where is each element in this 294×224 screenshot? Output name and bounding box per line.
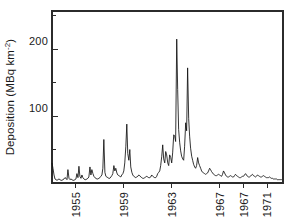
- data-line-deposition: [52, 39, 282, 180]
- y-axis-title: Deposition (MBq km-2): [3, 39, 16, 156]
- x-tick-label-0: 1955: [70, 192, 82, 217]
- x-tick-label-5: 1971: [261, 192, 273, 217]
- x-axis-ticks-group: [76, 183, 268, 188]
- y-tick-labels-group: 200 100: [29, 35, 48, 114]
- x-tick-label-1: 1959: [118, 192, 130, 217]
- data-series-group: [52, 39, 282, 180]
- x-tick-labels-group: 195519591963196719671971: [70, 192, 274, 217]
- deposition-chart-figure: Deposition (MBq km-2) 200 100 1955195919…: [0, 0, 294, 224]
- x-tick-label-2: 1963: [166, 192, 178, 217]
- y-axis-title-paren: ): [4, 39, 16, 43]
- y-tick-label-100: 100: [29, 102, 48, 114]
- y-axis-title-group: Deposition (MBq km-2): [3, 39, 16, 156]
- chart-canvas: Deposition (MBq km-2) 200 100 1955195919…: [0, 0, 294, 224]
- x-tick-label-3: 1967: [214, 192, 226, 217]
- y-tick-label-200: 200: [29, 35, 48, 47]
- x-tick-label-4: 1967: [238, 192, 250, 217]
- y-axis-title-main: Deposition (MBq km: [4, 50, 16, 155]
- y-axis-ticks-group: [52, 16, 58, 150]
- plot-frame-group: [52, 11, 283, 183]
- plot-frame: [52, 11, 283, 183]
